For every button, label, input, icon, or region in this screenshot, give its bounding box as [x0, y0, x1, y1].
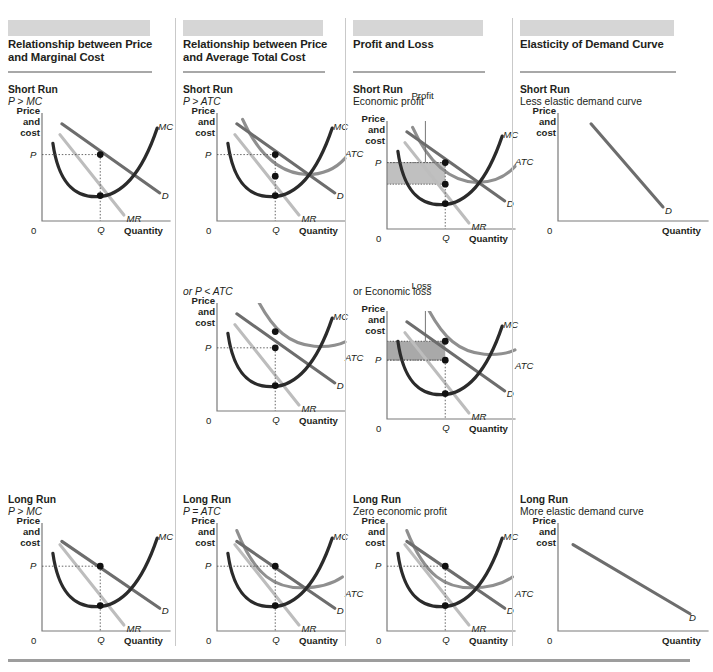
curve-label-d-lr-p-eq-atc: D: [337, 605, 344, 616]
column-title-line: and Marginal Cost: [8, 51, 168, 64]
column-title-price-marginal-cost: Relationship between Priceand Marginal C…: [8, 38, 168, 65]
y-axis-label-line: Price: [177, 515, 215, 526]
column-title-elasticity-of-demand-curve: Elasticity of Demand Curve: [520, 38, 692, 51]
column-header-bar-elasticity-of-demand-curve: [520, 20, 674, 36]
panel-run-label-sr-less-elastic: Short Run: [520, 84, 570, 95]
panel-run-label-sr-economic-profit: Short Run: [353, 84, 403, 95]
equilibrium-dot: [442, 181, 449, 188]
marginal-cost-curve: [228, 318, 332, 387]
figure-bottom-rule: [8, 659, 690, 662]
equilibrium-dot: [442, 563, 449, 570]
curve-label-d-sr-p-lt-atc: D: [337, 380, 344, 391]
x-axis-label-sr-less-elastic: Quantity: [662, 225, 701, 236]
equilibrium-dot: [97, 602, 104, 609]
y-axis-label-line: and: [177, 306, 215, 317]
graph-sr-less-elastic: DPriceandcost0Quantity: [524, 113, 713, 247]
x-axis-label-lr-p-eq-atc: Quantity: [299, 635, 338, 646]
column-title-line: and Average Total Cost: [183, 51, 341, 64]
price-tick-label-sr-p-gt-mc: P: [30, 149, 36, 160]
quantity-tick-label-sr-economic-loss: Q: [442, 422, 449, 433]
quantity-tick-label-sr-economic-profit: Q: [442, 232, 449, 243]
y-axis-label-sr-p-gt-mc: Priceandcost: [2, 105, 40, 139]
origin-label-sr-p-gt-mc: 0: [31, 225, 36, 236]
quantity-tick-label-lr-p-eq-atc: Q: [272, 634, 279, 645]
average-total-cost-curve: [243, 119, 345, 174]
equilibrium-dot: [442, 159, 449, 166]
y-axis-label-line: cost: [177, 127, 215, 138]
y-axis-label-sr-p-lt-atc: Priceandcost: [177, 295, 215, 329]
marginal-revenue-curve: [405, 545, 469, 625]
origin-label-lr-p-gt-mc: 0: [31, 635, 36, 646]
equilibrium-dot: [272, 173, 279, 180]
marginal-revenue-curve: [60, 545, 124, 625]
price-tick-label-lr-zero-profit: P: [375, 560, 381, 571]
equilibrium-dot: [272, 382, 279, 389]
equilibrium-dot: [272, 328, 279, 335]
marginal-revenue-curve: [235, 545, 299, 625]
y-axis-label-lr-more-elastic: Priceandcost: [518, 515, 556, 549]
y-axis-label-line: Price: [347, 113, 385, 124]
graph-sr-p-gt-mc: MRDMCPQPriceandcost0Quantity: [8, 113, 176, 247]
column-header-bar-price-marginal-cost: [8, 20, 150, 36]
graph-lr-p-gt-mc: MRDMCPQPriceandcost0Quantity: [8, 523, 176, 657]
equilibrium-dot: [442, 338, 449, 345]
equilibrium-dot: [97, 151, 104, 158]
y-axis-label-lr-p-gt-mc: Priceandcost: [2, 515, 40, 549]
column-title-rule-price-average-total-cost: [183, 71, 325, 73]
column-title-rule-profit-and-loss: [353, 71, 485, 73]
annotation-label-sr-economic-profit: Profit: [411, 90, 433, 101]
column-title-price-average-total-cost: Relationship between Priceand Average To…: [183, 38, 341, 65]
panel-run-label-sr-p-gt-atc: Short Run: [183, 84, 233, 95]
y-axis-label-line: and: [2, 116, 40, 127]
x-axis-label-sr-p-gt-atc: Quantity: [299, 225, 338, 236]
graph-sr-economic-profit: MRATCDMCPQProfitPriceandcost0Quantity: [353, 121, 521, 255]
equilibrium-dot: [442, 200, 449, 207]
equilibrium-dot: [442, 602, 449, 609]
curve-label-mc-lr-zero-profit: MC: [503, 531, 518, 542]
panel-run-label-lr-more-elastic: Long Run: [520, 494, 568, 505]
panel-run-label-lr-p-gt-mc: Long Run: [8, 494, 56, 505]
curve-label-atc-sr-economic-loss: ATC: [515, 360, 533, 371]
demand-curve: [407, 541, 505, 608]
y-axis-label-line: and: [177, 116, 215, 127]
axes-sr-less-elastic: [558, 113, 708, 221]
axes-sr-economic-loss: [387, 311, 515, 419]
quantity-tick-label-lr-p-gt-mc: Q: [97, 634, 104, 645]
price-tick-label-sr-economic-loss: P: [375, 354, 381, 365]
demand-curve: [62, 541, 160, 608]
equilibrium-dot: [272, 602, 279, 609]
price-tick-label-sr-p-gt-atc: P: [205, 149, 211, 160]
column-divider-0: [175, 18, 176, 646]
curve-label-mr-lr-zero-profit: MR: [472, 623, 487, 634]
y-axis-label-line: cost: [347, 135, 385, 146]
curve-label-mc-sr-economic-profit: MC: [503, 129, 518, 140]
y-axis-label-line: and: [177, 526, 215, 537]
y-axis-label-line: cost: [347, 537, 385, 548]
marginal-cost-curve: [228, 128, 332, 197]
x-axis-label-sr-economic-loss: Quantity: [469, 423, 508, 434]
demand-curve: [591, 124, 663, 207]
equilibrium-dot: [272, 344, 279, 351]
equilibrium-dot: [97, 563, 104, 570]
x-axis-label-lr-zero-profit: Quantity: [469, 635, 508, 646]
equilibrium-dot: [272, 563, 279, 570]
y-axis-label-line: and: [518, 526, 556, 537]
x-axis-label-sr-economic-profit: Quantity: [469, 233, 508, 244]
y-axis-label-lr-zero-profit: Priceandcost: [347, 515, 385, 549]
y-axis-label-line: cost: [2, 537, 40, 548]
y-axis-label-line: Price: [347, 303, 385, 314]
panel-run-label-lr-zero-profit: Long Run: [353, 494, 401, 505]
column-header-bar-profit-and-loss: [353, 20, 483, 36]
y-axis-label-line: Price: [518, 105, 556, 116]
axes-sr-p-lt-atc: [217, 303, 345, 411]
curve-label-d-sr-less-elastic: D: [665, 205, 672, 216]
curve-label-d-sr-p-gt-mc: D: [162, 190, 169, 201]
curve-label-mr-sr-p-lt-atc: MR: [302, 403, 317, 414]
curve-label-d-sr-p-gt-atc: D: [337, 190, 344, 201]
price-tick-label-lr-p-gt-mc: P: [30, 560, 36, 571]
curve-label-mc-sr-p-gt-mc: MC: [158, 121, 173, 132]
y-axis-label-sr-less-elastic: Priceandcost: [518, 105, 556, 139]
marginal-cost-curve: [53, 128, 157, 197]
y-axis-label-line: and: [347, 124, 385, 135]
quantity-tick-label-lr-zero-profit: Q: [442, 634, 449, 645]
